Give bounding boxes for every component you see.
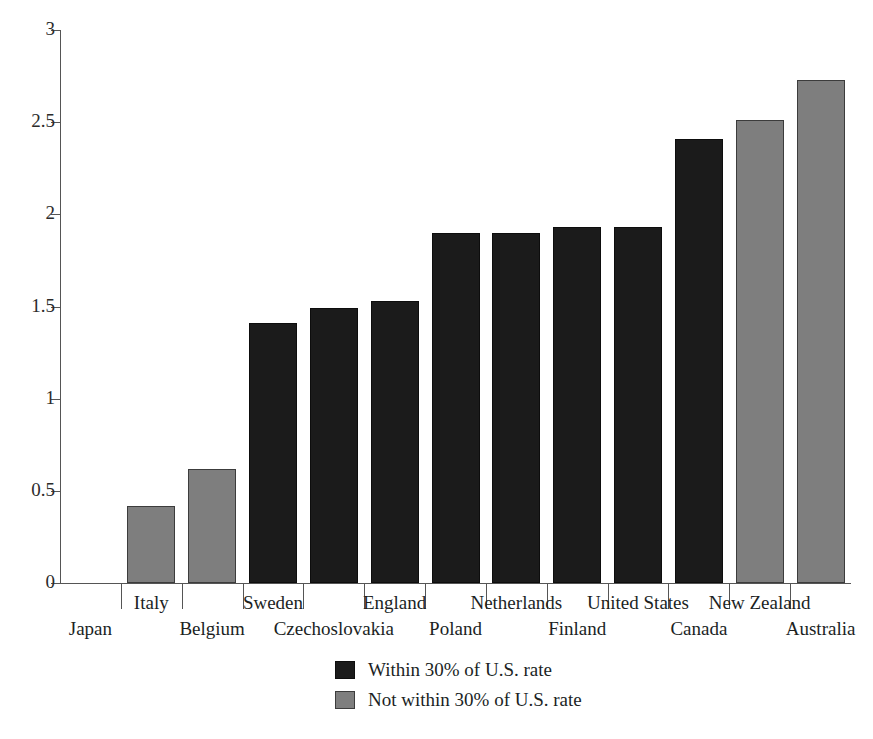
bar-new-zealand <box>736 120 784 583</box>
y-tick-label: 3 <box>46 19 56 39</box>
bar-czechoslovakia <box>310 308 358 583</box>
bar-netherlands <box>492 233 540 583</box>
x-label-new-zealand: New Zealand <box>665 592 855 613</box>
bar-belgium <box>188 469 236 583</box>
legend-label-not-within: Not within 30% of U.S. rate <box>368 690 582 710</box>
x-axis-line <box>60 583 851 584</box>
bar-sweden <box>249 323 297 583</box>
bar-united-states <box>614 227 662 583</box>
bar-england <box>371 301 419 583</box>
legend-item-not-within: Not within 30% of U.S. rate <box>335 690 582 710</box>
bar-poland <box>432 233 480 583</box>
y-tick-label: 0 <box>46 572 56 592</box>
legend-swatch-within-icon <box>335 661 355 679</box>
legend-swatch-not-within-icon <box>335 691 355 709</box>
legend-item-within: Within 30% of U.S. rate <box>335 660 552 680</box>
x-label-australia: Australia <box>726 618 873 639</box>
legend-label-within: Within 30% of U.S. rate <box>368 660 552 680</box>
y-tick-label: 2.5 <box>31 111 55 131</box>
y-tick-label: 1.5 <box>31 296 55 316</box>
y-tick-label: 2 <box>46 203 56 223</box>
bar-canada <box>675 139 723 583</box>
y-tick-label: 1 <box>46 388 56 408</box>
bar-italy <box>127 506 175 583</box>
bar-chart: 00.511.522.53 JapanItalyBelgiumSwedenCze… <box>0 0 873 739</box>
plot-area: 00.511.522.53 <box>60 30 851 583</box>
y-axis-line <box>60 30 61 583</box>
bar-finland <box>553 227 601 583</box>
y-tick-label: 0.5 <box>31 480 55 500</box>
bar-australia <box>797 80 845 583</box>
